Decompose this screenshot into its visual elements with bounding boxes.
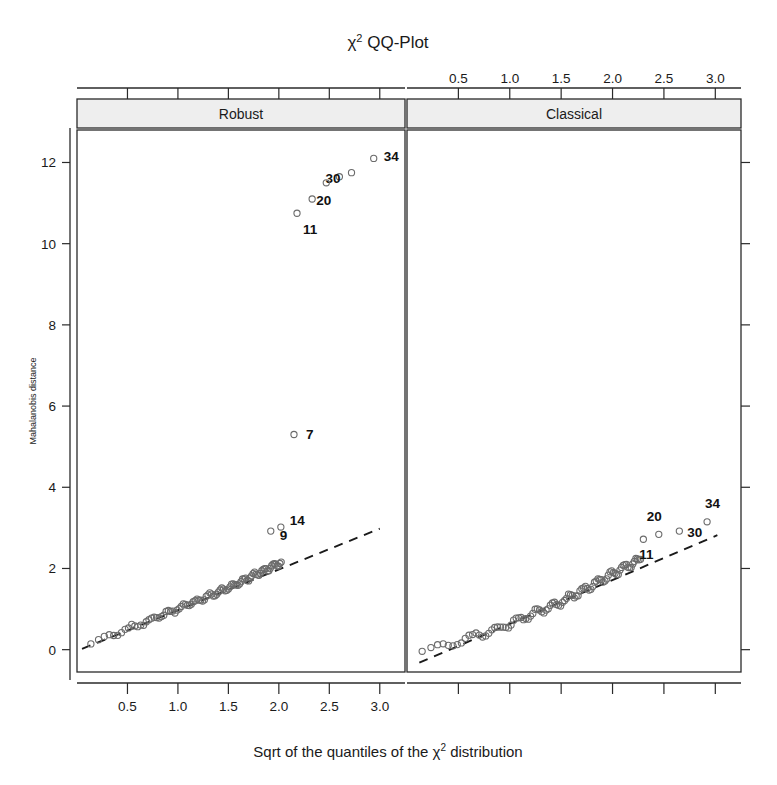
- data-point-marker: [348, 170, 354, 176]
- point-label: 20: [316, 193, 331, 208]
- x-axis-label: Sqrt of the quantiles of the χ2 distribu…: [253, 742, 522, 760]
- point-label: 9: [280, 528, 288, 543]
- labeled-point-34: 34: [704, 496, 721, 525]
- x-tick-label: 2.0: [269, 699, 288, 714]
- labeled-point-7: 7: [291, 427, 314, 442]
- x-tick-label: 2.5: [320, 699, 339, 714]
- point-label: 11: [639, 547, 654, 562]
- point-label: 30: [326, 171, 341, 186]
- top-tick-label: 1.5: [552, 71, 571, 86]
- data-point-marker: [640, 536, 646, 542]
- y-tick-label: 8: [48, 318, 56, 333]
- point-label: 14: [290, 513, 306, 528]
- top-tick-label: 3.0: [706, 71, 725, 86]
- y-tick-label: 2: [48, 561, 56, 576]
- panel-border: [407, 130, 741, 672]
- top-tick-label: 2.5: [655, 71, 674, 86]
- panel-classical: Classical0.51.01.52.02.53.034302011: [407, 71, 750, 694]
- data-point: [88, 641, 94, 647]
- top-tick-label: 0.5: [449, 71, 468, 86]
- panel-data-classical: [419, 535, 717, 662]
- data-point: [419, 648, 425, 654]
- panel-border: [77, 130, 405, 672]
- chi-square-qq-plot-figure: χ2 QQ-PlotSqrt of the quantiles of the χ…: [0, 0, 777, 785]
- panel-robust: Robust0.51.01.52.02.53.0343020117149: [77, 88, 405, 714]
- point-label: 20: [647, 509, 662, 524]
- top-tick-label: 1.0: [500, 71, 519, 86]
- y-tick-label: 12: [41, 155, 56, 170]
- qq-plot-svg: χ2 QQ-PlotSqrt of the quantiles of the χ…: [0, 0, 777, 785]
- data-point: [309, 196, 315, 202]
- y-tick-label: 0: [48, 643, 56, 658]
- y-tick-label: 4: [48, 480, 56, 495]
- panel-strip-label: Robust: [219, 106, 263, 122]
- x-tick-label: 3.0: [370, 699, 389, 714]
- point-label: 34: [705, 496, 721, 511]
- labeled-point-20: 20: [647, 509, 662, 537]
- data-point: [428, 644, 434, 650]
- data-point-marker: [676, 528, 682, 534]
- labeled-point-34: 34: [371, 149, 400, 164]
- x-tick-label: 1.5: [219, 699, 238, 714]
- chart-title: χ2 QQ-Plot: [347, 32, 428, 52]
- data-point-marker: [371, 155, 377, 161]
- panel-strip-label: Classical: [546, 106, 602, 122]
- labeled-point-20: 20: [316, 180, 331, 208]
- data-point-marker: [291, 431, 297, 437]
- data-point: [454, 642, 460, 648]
- point-label: 7: [306, 427, 314, 442]
- y-axis-label: Mahalanobis distance: [28, 357, 38, 444]
- x-tick-label: 1.0: [169, 699, 188, 714]
- labeled-point-9: 9: [268, 528, 288, 543]
- top-tick-label: 2.0: [603, 71, 622, 86]
- point-label: 34: [384, 149, 400, 164]
- data-point-marker: [268, 528, 274, 534]
- point-label: 11: [303, 222, 318, 237]
- data-point-marker: [656, 531, 662, 537]
- labeled-point-30: 30: [676, 525, 702, 540]
- point-label: 30: [687, 525, 702, 540]
- data-point-marker: [294, 210, 300, 216]
- panel-data-robust: [82, 174, 380, 649]
- y-tick-label: 10: [41, 237, 56, 252]
- data-point-marker: [704, 519, 710, 525]
- x-tick-label: 0.5: [118, 699, 137, 714]
- y-tick-label: 6: [48, 399, 56, 414]
- labeled-point-11: 11: [639, 536, 654, 562]
- labeled-point-11: 11: [294, 210, 318, 237]
